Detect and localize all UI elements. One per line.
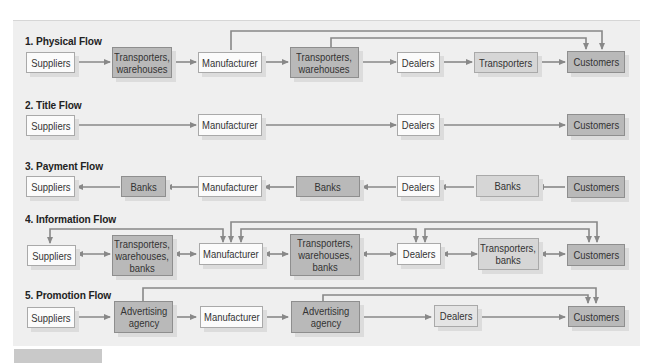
- node-label: Suppliers: [31, 57, 70, 69]
- node-label: Transporters, warehouses, banks: [115, 238, 171, 274]
- node-label: Dealers: [402, 181, 435, 193]
- node-label: Manufacturer: [202, 181, 258, 193]
- node-transporters-warehouses-banks-2: Transporters, warehouses, banks: [290, 234, 360, 276]
- node-label: Transporters, warehouses: [297, 51, 353, 75]
- node-advertising-agency: Advertising agency: [114, 301, 173, 333]
- node-label: Transporters, banks: [481, 242, 537, 266]
- node-customers: Customers: [568, 306, 625, 327]
- node-label: Manufacturer: [204, 311, 260, 323]
- node-label: Banks: [315, 181, 341, 193]
- node-transporters-warehouses-banks: Transporters, warehouses, banks: [112, 235, 173, 276]
- node-label: Suppliers: [31, 312, 70, 324]
- node-label: Customers: [573, 119, 619, 131]
- node-suppliers: Suppliers: [27, 307, 75, 328]
- node-customers: Customers: [567, 176, 625, 198]
- node-manufacturer: Manufacturer: [200, 306, 263, 328]
- node-label: Suppliers: [32, 250, 71, 262]
- node-banks-2: Banks: [296, 176, 360, 197]
- node-label: Dealers: [403, 248, 436, 260]
- node-suppliers: Suppliers: [26, 115, 75, 136]
- node-label: Transporters, warehouses: [114, 51, 170, 75]
- node-label: Dealers: [402, 119, 435, 131]
- figure-label-tab: [14, 349, 102, 363]
- node-manufacturer: Manufacturer: [198, 176, 262, 197]
- node-label: Customers: [574, 311, 620, 323]
- node-suppliers: Suppliers: [27, 245, 76, 266]
- node-suppliers: Suppliers: [26, 52, 75, 73]
- node-label: Advertising agency: [302, 305, 349, 329]
- node-customers: Customers: [567, 51, 625, 73]
- node-manufacturer: Manufacturer: [198, 114, 262, 136]
- node-manufacturer: Manufacturer: [199, 243, 263, 265]
- node-dealers: Dealers: [397, 114, 440, 136]
- node-label: Customers: [573, 249, 619, 261]
- node-label: Suppliers: [31, 120, 70, 132]
- node-transporters-banks: Transporters, banks: [478, 238, 539, 270]
- node-label: Banks: [494, 180, 520, 192]
- title-flow-title: 2. Title Flow: [25, 99, 82, 111]
- node-label: Transporters: [479, 57, 532, 69]
- node-banks: Banks: [121, 176, 166, 197]
- node-transporters-warehouses-2: Transporters, warehouses: [290, 47, 359, 78]
- node-label: Customers: [573, 181, 619, 193]
- node-label: Dealers: [402, 57, 435, 69]
- node-label: Manufacturer: [203, 248, 259, 260]
- node-label: Manufacturer: [202, 57, 258, 69]
- node-transporters: Transporters: [474, 52, 538, 73]
- node-customers: Customers: [567, 244, 625, 266]
- node-label: Banks: [130, 181, 156, 193]
- physical-flow-title: 1. Physical Flow: [25, 35, 102, 47]
- node-suppliers: Suppliers: [26, 176, 75, 197]
- node-label: Suppliers: [31, 181, 70, 193]
- node-transporters-warehouses: Transporters, warehouses: [112, 47, 172, 78]
- node-manufacturer: Manufacturer: [198, 52, 262, 73]
- node-dealers: Dealers: [434, 305, 478, 327]
- node-label: Customers: [573, 56, 619, 68]
- node-customers: Customers: [567, 114, 625, 136]
- promotion-flow-title: 5. Promotion Flow: [25, 289, 111, 301]
- node-dealers: Dealers: [397, 52, 440, 73]
- node-label: Transporters, warehouses, banks: [297, 237, 353, 273]
- information-flow-title: 4. Information Flow: [25, 213, 116, 225]
- node-banks-3: Banks: [476, 175, 539, 197]
- node-label: Dealers: [440, 310, 473, 322]
- node-dealers: Dealers: [397, 243, 441, 265]
- node-label: Advertising agency: [120, 305, 167, 329]
- node-advertising-agency-2: Advertising agency: [291, 301, 360, 333]
- node-label: Manufacturer: [202, 119, 258, 131]
- payment-flow-title: 3. Payment Flow: [25, 160, 103, 172]
- node-dealers: Dealers: [397, 176, 440, 197]
